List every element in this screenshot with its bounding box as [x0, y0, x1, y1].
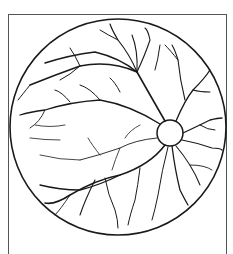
blood-vessels [18, 24, 222, 228]
fundus-boundary [10, 19, 226, 235]
optic-disc [157, 120, 183, 146]
